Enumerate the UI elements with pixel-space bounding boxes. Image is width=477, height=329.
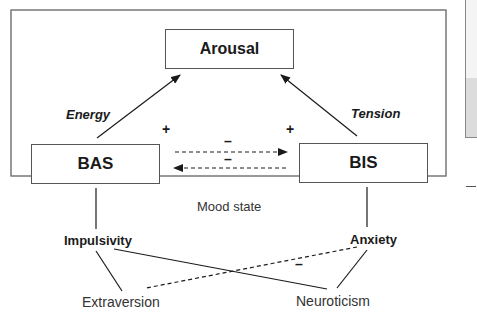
bis-node: BIS <box>299 143 428 183</box>
anxiety-label: Anxiety <box>350 233 397 246</box>
bas-node: BAS <box>31 144 160 184</box>
anxiety-extraversion-minus-label: – <box>295 257 303 271</box>
bis-to-bas-minus-label: – <box>224 152 232 166</box>
impulsivity-label: Impulsivity <box>64 234 132 247</box>
bis-plus-label: + <box>286 122 294 136</box>
bas-to-bis-minus-label: – <box>224 134 232 148</box>
bas-label: BAS <box>78 154 114 174</box>
adjacent-figure-rule <box>466 186 476 187</box>
anxiety-neuroticism-line <box>337 250 367 288</box>
arousal-node: Arousal <box>165 29 294 69</box>
mood-state-label: Mood state <box>197 200 261 213</box>
impulsivity-extraversion-line <box>96 251 122 291</box>
bis-label: BIS <box>349 153 377 173</box>
anxiety-extraversion-line <box>146 247 357 288</box>
neuroticism-label: Neuroticism <box>296 294 370 308</box>
extraversion-label: Extraversion <box>82 295 160 309</box>
tension-label: Tension <box>351 107 400 120</box>
energy-label: Energy <box>66 108 110 121</box>
bas-plus-label: + <box>162 122 170 136</box>
adjacent-figure-fragment <box>465 0 477 138</box>
arousal-label: Arousal <box>200 40 260 58</box>
